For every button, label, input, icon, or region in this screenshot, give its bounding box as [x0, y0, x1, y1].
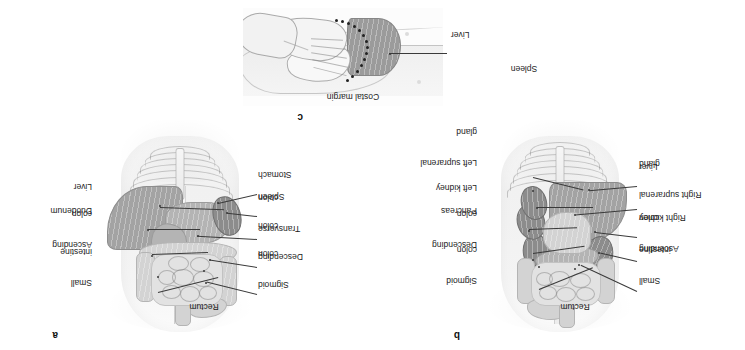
label-liver: Liver — [2, 161, 92, 212]
anatomy-figure: a — [0, 0, 745, 350]
label-liver: Liver — [451, 9, 487, 60]
label-rectum: Rectum — [168, 281, 240, 332]
panel-c: c — [211, 0, 457, 126]
panel-a: a — [0, 118, 370, 350]
panel-b-letter: b — [454, 330, 460, 340]
leader-line — [537, 207, 593, 208]
panel-b: b — [373, 118, 745, 350]
label-spleen: Spleen — [489, 43, 559, 94]
label-rectum: Rectum — [539, 281, 611, 332]
leader-line — [148, 229, 200, 230]
label-stomach: Stomach — [258, 149, 362, 200]
leader-line — [389, 53, 447, 54]
panel-a-letter: a — [52, 330, 58, 340]
panel-c-letter: c — [297, 112, 303, 122]
label-liver: Liver — [639, 141, 741, 192]
label-costal-margin: Costal margin — [311, 71, 395, 122]
